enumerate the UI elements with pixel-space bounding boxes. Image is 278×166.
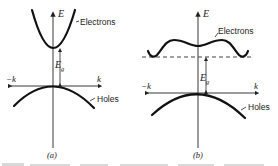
electrons-label: Electrons <box>218 26 253 36</box>
valence-band-curve <box>152 94 245 118</box>
panel-b-indirect-gap: E −k k Electrons Holes Eg (b) <box>141 8 270 160</box>
electrons-label: Electrons <box>80 17 115 27</box>
holes-leader-line <box>241 107 246 110</box>
band-gap-label: Eg <box>54 59 65 72</box>
holes-label: Holes <box>97 94 119 104</box>
k-positive-label: k <box>97 74 102 84</box>
cropped-caption-remnant <box>2 163 264 166</box>
band-gap-label: Eg <box>199 72 210 85</box>
band-structure-figure: E −k k Electrons Holes Eg (a) E −k k <box>0 0 278 166</box>
holes-label: Holes <box>248 102 270 112</box>
panel-label-a: (a) <box>47 150 57 160</box>
k-negative-label: −k <box>141 81 152 91</box>
electrons-leader-line <box>76 21 79 22</box>
energy-axis-label: E <box>202 8 209 19</box>
conduction-band-curve <box>32 10 75 48</box>
panel-label-b: (b) <box>193 150 203 160</box>
k-negative-label: −k <box>6 74 17 84</box>
panel-a-direct-gap: E −k k Electrons Holes Eg (a) <box>6 8 119 160</box>
holes-leader-line <box>90 98 95 101</box>
k-positive-label: k <box>254 81 259 91</box>
valence-band-curve <box>14 86 94 108</box>
energy-axis-label: E <box>57 8 64 19</box>
